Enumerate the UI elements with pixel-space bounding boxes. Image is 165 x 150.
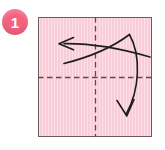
- paper-square: [38, 17, 152, 137]
- origami-step-figure: 1: [0, 0, 165, 150]
- step-number-badge: 1: [2, 9, 28, 35]
- step-number-label: 1: [11, 14, 19, 29]
